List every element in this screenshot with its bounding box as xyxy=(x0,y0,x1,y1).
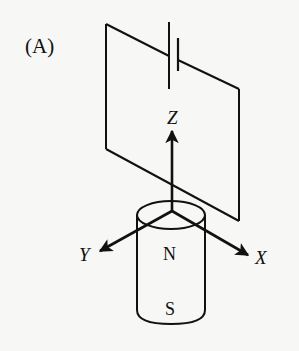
wire-top-right xyxy=(178,60,239,89)
wire-top-left xyxy=(106,24,169,56)
diagram-canvas: (A) Z Y X N S xyxy=(0,0,299,351)
coordinate-axes xyxy=(100,131,248,255)
x-axis-arrow xyxy=(172,211,248,255)
battery-icon xyxy=(169,22,178,89)
south-pole-label: S xyxy=(165,300,175,318)
z-axis-label: Z xyxy=(167,108,178,127)
north-pole-label: N xyxy=(163,245,176,263)
y-axis-label: Y xyxy=(79,245,90,264)
panel-label: (A) xyxy=(25,36,54,57)
x-axis-label: X xyxy=(255,248,267,267)
